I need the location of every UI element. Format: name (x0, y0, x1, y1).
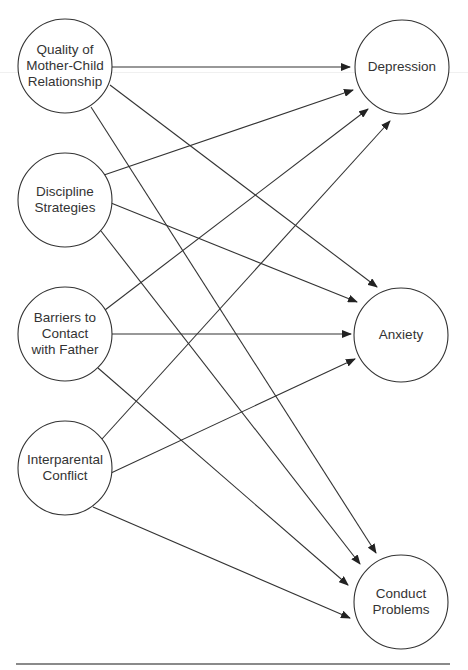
node-label-line: with Father (18, 342, 112, 358)
node-label-depression: Depression (355, 59, 449, 75)
bottom-rule (16, 663, 450, 665)
path-arrow-interparental-to-depression (102, 121, 390, 439)
node-label-line: Contact (18, 326, 112, 342)
node-label-interparental: InterparentalConflict (18, 452, 112, 484)
node-label-anxiety: Anxiety (354, 327, 448, 343)
path-arrow-interparental-to-anxiety (111, 359, 355, 473)
node-label-line: Conflict (18, 468, 112, 484)
path-arrow-barriers-to-conduct (98, 368, 348, 585)
node-label-conduct: ConductProblems (354, 586, 448, 618)
node-label-line: Barriers to (18, 310, 112, 326)
node-label-discipline: DisciplineStrategies (18, 184, 112, 216)
node-label-line: Anxiety (354, 327, 448, 343)
node-label-line: Discipline (18, 184, 112, 200)
node-label-mother_child: Quality ofMother-ChildRelationship (18, 42, 112, 90)
node-label-line: Quality of (18, 42, 112, 58)
path-arrow-interparental-to-conduct (93, 507, 350, 618)
node-label-barriers: Barriers toContactwith Father (18, 310, 112, 358)
node-label-line: Conduct (354, 586, 448, 602)
paths-layer (91, 67, 390, 618)
path-arrow-discipline-to-depression (104, 90, 353, 175)
node-label-line: Problems (354, 602, 448, 618)
node-label-line: Relationship (18, 74, 112, 90)
path-arrow-barriers-to-depression (105, 109, 368, 310)
node-label-line: Interparental (18, 452, 112, 468)
path-arrow-discipline-to-anxiety (111, 203, 357, 302)
node-label-line: Depression (355, 59, 449, 75)
node-label-line: Mother-Child (18, 58, 112, 74)
node-label-line: Strategies (18, 200, 112, 216)
